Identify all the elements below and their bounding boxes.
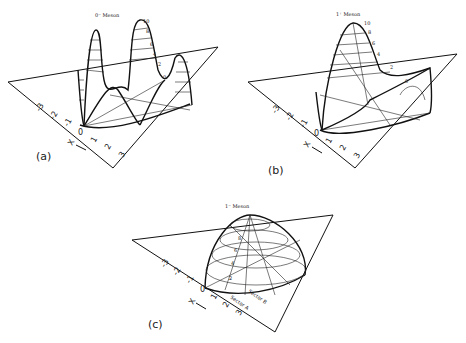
arrow-icon — [196, 303, 206, 309]
arrow-icon — [76, 145, 86, 150]
panel-a: 10 8 6 4 2 0 0⁻ Meson -3 -2 -1 0 1 2 3 X… — [8, 12, 218, 168]
svg-text:-2: -2 — [171, 266, 183, 277]
svg-text:-1: -1 — [298, 118, 310, 129]
svg-text:10: 10 — [143, 18, 149, 24]
svg-text:10: 10 — [364, 20, 370, 26]
svg-text:8: 8 — [368, 29, 371, 35]
svg-text:2: 2 — [221, 300, 231, 309]
panel-b-title: 1⁺ Meson — [336, 11, 361, 17]
svg-text:-3: -3 — [159, 258, 171, 269]
svg-text:0: 0 — [405, 78, 408, 84]
svg-text:2: 2 — [229, 275, 232, 281]
panel-c: 8 6 4 2 1⁻ Meson -3 -2 -1 0 1 2 3 X Sect… — [132, 203, 333, 332]
panel-c-title: 1⁻ Meson — [225, 203, 250, 209]
panel-a-label: (a) — [36, 150, 51, 163]
svg-text:4: 4 — [377, 51, 380, 57]
svg-text:-1: -1 — [184, 274, 196, 285]
svg-text:1: 1 — [209, 292, 219, 301]
svg-text:4: 4 — [153, 51, 156, 57]
panel-b-axis-ticks: -3 -2 -1 0 1 2 3 — [270, 104, 362, 160]
panel-b-label: (b) — [268, 164, 284, 177]
svg-text:8: 8 — [238, 235, 241, 241]
panel-c-height-ticks: 8 6 4 2 — [229, 235, 241, 281]
svg-text:0: 0 — [78, 128, 83, 137]
svg-text:6: 6 — [372, 40, 375, 46]
svg-text:2: 2 — [103, 142, 113, 151]
svg-text:3: 3 — [117, 150, 127, 159]
svg-text:4: 4 — [231, 260, 234, 266]
svg-text:2: 2 — [158, 61, 161, 67]
panel-a-title: 0⁻ Meson — [95, 12, 120, 18]
svg-text:-1: -1 — [62, 117, 74, 128]
svg-text:0: 0 — [163, 74, 166, 80]
svg-text:0: 0 — [200, 285, 205, 294]
panel-c-label: (c) — [148, 318, 163, 331]
svg-text:-3: -3 — [270, 104, 282, 115]
panel-b: 10 8 6 4 2 0 1⁺ Meson -3 -2 -1 0 1 2 3 X… — [248, 11, 457, 177]
panel-a-x-axis-label: X — [66, 137, 77, 147]
svg-text:-2: -2 — [48, 110, 60, 121]
svg-text:6: 6 — [234, 247, 237, 253]
svg-text:1: 1 — [89, 135, 99, 144]
sector-a-label: Sector A — [229, 294, 250, 311]
svg-text:0: 0 — [314, 129, 319, 138]
panel-c-x-axis-label: X — [187, 296, 198, 306]
svg-text:6: 6 — [150, 41, 153, 47]
figure: 10 8 6 4 2 0 0⁻ Meson -3 -2 -1 0 1 2 3 X… — [0, 0, 466, 343]
panel-c-axis-ticks: -3 -2 -1 0 1 2 3 — [159, 258, 244, 317]
svg-text:2: 2 — [338, 143, 348, 152]
arrow-icon — [312, 147, 322, 153]
svg-text:2: 2 — [390, 64, 393, 70]
svg-text:8: 8 — [146, 28, 149, 34]
svg-text:3: 3 — [352, 151, 362, 160]
panel-b-x-axis-label: X — [302, 139, 313, 149]
